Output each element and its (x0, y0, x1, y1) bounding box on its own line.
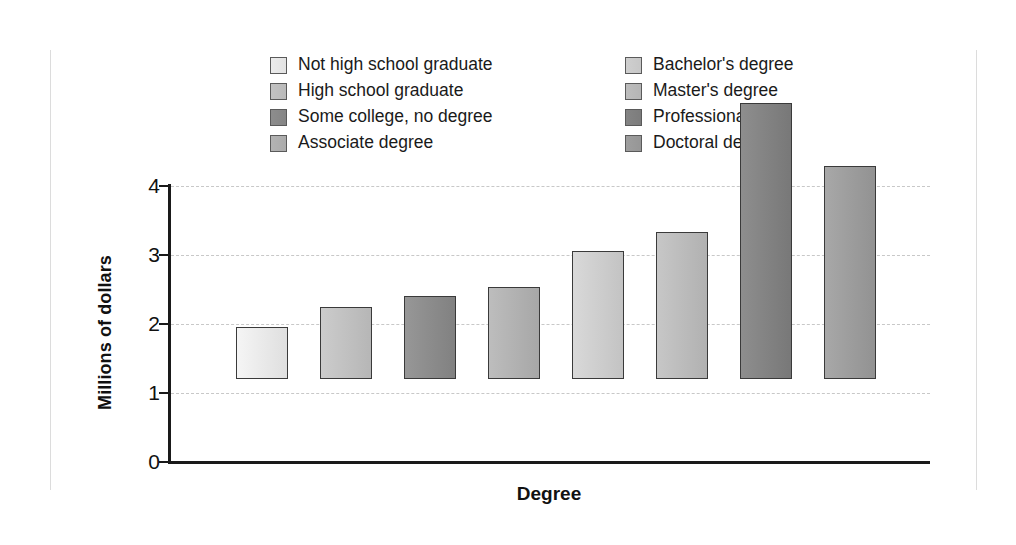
bar[interactable] (656, 232, 708, 379)
bar[interactable] (740, 103, 792, 379)
bar[interactable] (404, 296, 456, 379)
bar[interactable] (488, 287, 540, 379)
bar[interactable] (236, 327, 288, 379)
figure-canvas: Not high school graduateHigh school grad… (0, 0, 1016, 545)
bar-group (0, 0, 1016, 462)
bar[interactable] (320, 307, 372, 379)
bar[interactable] (824, 166, 876, 379)
plot-area: 01234 Millions of dollars Degree (0, 0, 1016, 545)
x-axis-title: Degree (168, 483, 930, 505)
bar[interactable] (572, 251, 624, 379)
y-axis-title: Millions of dollars (95, 218, 116, 448)
